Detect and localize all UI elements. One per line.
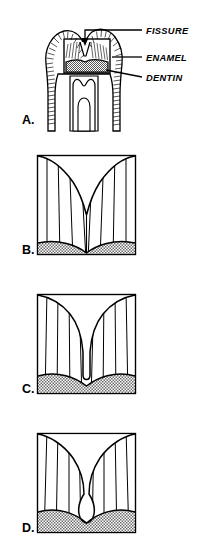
panel-b: B. bbox=[22, 150, 136, 260]
figure-root: FISSURE ENAMEL DENTIN A. bbox=[0, 0, 201, 549]
panel-d: D. bbox=[22, 428, 136, 540]
panel-c-fissure-tip bbox=[83, 375, 90, 380]
panel-a: FISSURE ENAMEL DENTIN A. bbox=[22, 26, 189, 131]
dentin-region-a bbox=[66, 60, 108, 72]
callout-label-fissure: FISSURE bbox=[146, 26, 189, 36]
panel-letter-b: B. bbox=[22, 243, 35, 257]
panel-letter-a: A. bbox=[22, 113, 35, 127]
tooth-fissure-figure: FISSURE ENAMEL DENTIN A. bbox=[0, 0, 201, 549]
callout-label-dentin: DENTIN bbox=[146, 73, 182, 83]
callout-label-enamel: ENAMEL bbox=[146, 53, 187, 63]
panel-letter-c: C. bbox=[22, 382, 35, 396]
panel-letter-d: D. bbox=[22, 521, 35, 535]
root-canal bbox=[78, 98, 90, 131]
panel-c: C. bbox=[22, 289, 136, 400]
